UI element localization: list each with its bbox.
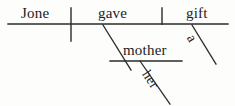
direct-object-word: gift — [186, 6, 208, 21]
sentence-diagram: Jone gave gift mother a her — [0, 0, 235, 106]
indirect-object-word: mother — [123, 43, 167, 58]
subject-word: Jone — [21, 6, 49, 21]
verb-word: gave — [98, 6, 127, 21]
